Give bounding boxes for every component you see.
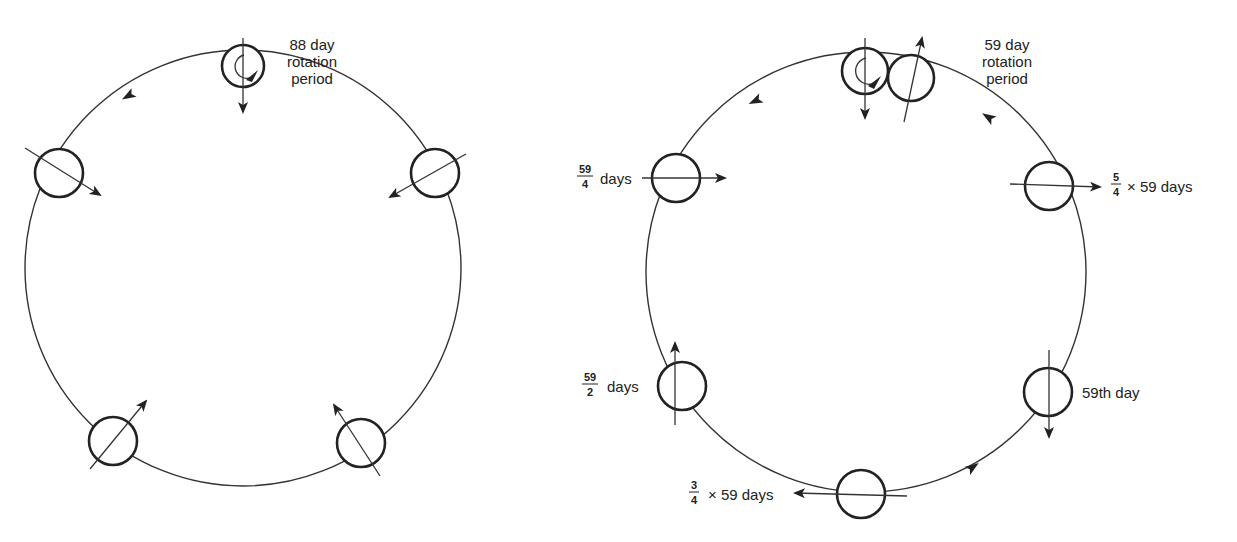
left-orbit — [25, 50, 461, 486]
svg-text:59: 59 — [579, 163, 591, 175]
label-fifty-nine-half-days: 59 2 days — [582, 371, 639, 398]
svg-text:× 59 days: × 59 days — [708, 486, 773, 503]
label-fifty-ninth-day: 59th day — [1082, 384, 1140, 401]
svg-text:59: 59 — [584, 371, 596, 383]
left-diagram: 88 day rotation period — [25, 36, 466, 486]
right-orbit-arrow-icon — [747, 94, 764, 109]
left-title-line-3: period — [291, 70, 333, 87]
left-title-line-2: rotation — [287, 53, 337, 70]
right-planet-fifty-nine-quarter — [642, 154, 725, 202]
right-orbit-arrow-icon — [979, 109, 996, 125]
left-orbit-arrow-icon — [119, 88, 136, 104]
right-diagram: 59 day rotation period 59 4 days 5 4 × 5… — [577, 36, 1192, 518]
left-planet-upper-left — [25, 148, 100, 197]
label-fifty-nine-quarter-days: 59 4 days — [577, 163, 632, 190]
svg-text:3: 3 — [691, 479, 697, 491]
svg-text:5: 5 — [1113, 171, 1119, 183]
right-planet-three-quarter — [795, 470, 907, 518]
svg-text:4: 4 — [582, 178, 589, 190]
left-title-line-1: 88 day — [289, 36, 335, 53]
svg-text:4: 4 — [691, 494, 698, 506]
left-planet-top — [222, 38, 264, 112]
svg-text:days: days — [600, 170, 632, 187]
svg-text:days: days — [607, 378, 639, 395]
label-five-quarter-days: 5 4 × 59 days — [1111, 171, 1192, 198]
svg-text:4: 4 — [1113, 186, 1120, 198]
right-planet-top — [842, 38, 888, 118]
right-title-line-2: rotation — [982, 53, 1032, 70]
svg-text:2: 2 — [587, 386, 593, 398]
right-planet-fifty-ninth-day — [1024, 350, 1072, 437]
right-planet-five-quarter — [1010, 162, 1100, 210]
svg-text:× 59 days: × 59 days — [1127, 178, 1192, 195]
right-planet-fifty-nine-half — [658, 343, 706, 425]
left-planet-lower-right — [334, 405, 385, 476]
right-planet-top-shifted — [888, 38, 934, 122]
right-title-line-1: 59 day — [984, 36, 1030, 53]
left-planet-upper-right — [390, 149, 466, 197]
label-three-quarter-days: 3 4 × 59 days — [689, 479, 773, 506]
mercury-rotation-diagram: 88 day rotation period — [0, 0, 1237, 542]
right-title-line-3: period — [986, 70, 1028, 87]
right-orbit — [646, 52, 1086, 492]
